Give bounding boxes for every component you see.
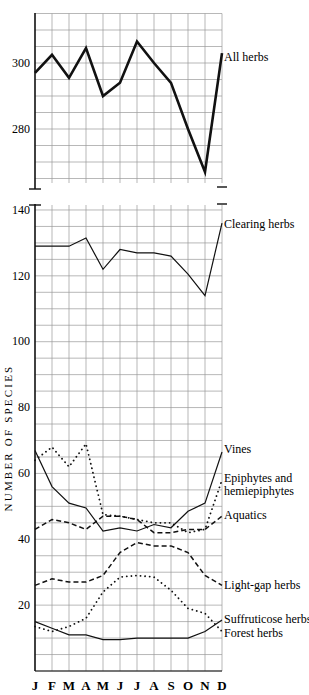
label-clearing-herbs: Clearing herbs xyxy=(224,217,295,231)
series-forest-herbs xyxy=(35,620,222,640)
series-all-herbs xyxy=(35,42,222,172)
month-label: J xyxy=(32,678,39,693)
label-suffruticose-herbs: Suffruticose herbs xyxy=(224,612,309,626)
y-axis-title: NUMBER OF SPECIES xyxy=(2,365,14,512)
top-panel-series xyxy=(35,42,222,172)
label-epiphytes-line1: Epiphytes and xyxy=(224,471,292,485)
label-aquatics: Aquatics xyxy=(224,508,267,522)
top-panel-grid xyxy=(35,14,222,184)
series-suffruticose-herbs xyxy=(35,576,222,632)
y-tick-120: 120 xyxy=(12,269,30,283)
y-tick-40: 40 xyxy=(18,532,30,546)
top-panel: 300 280 All herbs xyxy=(12,13,269,189)
month-label: J xyxy=(134,678,141,693)
bottom-panel: 140 120 100 80 60 40 20 Clearing herbs V… xyxy=(12,203,309,671)
month-label: D xyxy=(217,678,226,693)
bottom-panel-grid xyxy=(35,205,222,671)
month-label: A xyxy=(149,678,159,693)
label-light-gap-herbs: Light-gap herbs xyxy=(224,578,301,592)
y-tick-100: 100 xyxy=(12,334,30,348)
y-tick-140: 140 xyxy=(12,203,30,217)
month-label: J xyxy=(117,678,124,693)
label-all-herbs: All herbs xyxy=(224,50,269,64)
month-label: M xyxy=(97,678,109,693)
label-forest-herbs: Forest herbs xyxy=(224,626,283,640)
month-label: S xyxy=(167,678,174,693)
y-tick-280: 280 xyxy=(12,122,30,136)
species-chart: 300 280 All herbs 140 120 100 80 60 40 2… xyxy=(0,0,309,695)
bottom-panel-series xyxy=(35,223,222,640)
month-label: A xyxy=(81,678,91,693)
x-axis-month-labels: JFMAMJJASOND xyxy=(32,678,227,693)
series-vines xyxy=(35,450,222,531)
y-tick-300: 300 xyxy=(12,56,30,70)
y-tick-80: 80 xyxy=(18,400,30,414)
y-tick-20: 20 xyxy=(18,598,30,612)
label-epiphytes-line2: hemiepiphytes xyxy=(224,484,294,498)
series-light-gap-herbs xyxy=(35,543,222,586)
y-tick-60: 60 xyxy=(18,466,30,480)
month-label: N xyxy=(200,678,210,693)
label-vines: Vines xyxy=(224,442,252,456)
month-label: O xyxy=(183,678,193,693)
month-label: M xyxy=(63,678,75,693)
month-label: F xyxy=(48,678,56,693)
